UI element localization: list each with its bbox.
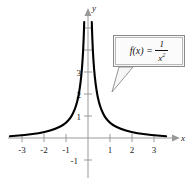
x-axis-arrow-icon <box>172 135 180 142</box>
formula-function-name: f(x) <box>130 46 144 56</box>
formula-fraction: 1x2 <box>155 40 168 63</box>
function-graph-figure: -3 -2 -1 1 2 3 -1 1 2 3 x y f(x)=1x2 <box>0 0 194 190</box>
x-tick-label--3: -3 <box>18 145 26 155</box>
plot-canvas: -3 -2 -1 1 2 3 -1 1 2 3 x y <box>0 0 194 190</box>
y-tick-label-1: 1 <box>77 112 82 122</box>
formula-numerator: 1 <box>158 40 167 49</box>
y-tick-label--1: -1 <box>71 156 79 166</box>
x-axis-label: x <box>180 133 185 143</box>
formula-callout: f(x)=1x2 <box>113 35 185 67</box>
x-tick-label--1: -1 <box>62 145 70 155</box>
fraction-bar-icon <box>155 50 168 51</box>
x-tick-label-1: 1 <box>108 145 113 155</box>
formula-callout-inner: f(x)=1x2 <box>115 37 183 65</box>
x-tick-label-2: 2 <box>130 145 135 155</box>
callout-pointer <box>112 67 133 92</box>
x-tick-label--2: -2 <box>40 145 48 155</box>
formula-denominator: x2 <box>156 52 167 63</box>
formula-equals-sign: = <box>147 46 153 56</box>
formula-denominator-exponent: 2 <box>162 52 165 58</box>
y-axis-arrow-icon <box>85 8 92 16</box>
y-axis-label: y <box>91 3 96 13</box>
curve-left-branch <box>10 22 84 136</box>
x-tick-label-3: 3 <box>152 145 157 155</box>
formula-expression: f(x)=1x2 <box>130 40 169 63</box>
